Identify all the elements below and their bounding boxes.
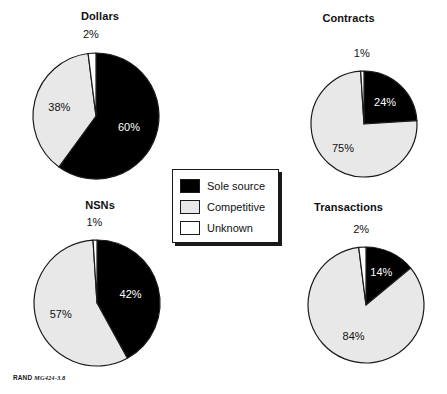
pie-slice-label-transactions-2: 2%: [353, 223, 369, 235]
pie-panel-dollars: Dollars 60%38%2%: [0, 0, 200, 190]
pie-svg-contracts: [250, 0, 447, 190]
pie-svg-dollars: [0, 0, 200, 190]
pie-graphic-dollars: 60%38%2%: [0, 0, 200, 190]
pie-graphic-contracts: 24%75%1%: [250, 0, 447, 190]
pie-panel-contracts: Contracts 24%75%1%: [250, 0, 447, 190]
figure-pie-chart-set: Dollars 60%38%2% Contracts 24%75%1% NSNs…: [0, 0, 447, 394]
pie-slice-label-dollars-0: 60%: [118, 121, 140, 133]
chart-legend: Sole source Competitive Unknown: [172, 169, 279, 243]
legend-swatch-competitive: [180, 200, 200, 214]
pie-slice-label-nsns-1: 57%: [50, 308, 72, 320]
pie-graphic-transactions: 14%84%2%: [250, 190, 447, 375]
pie-slice-label-nsns-2: 1%: [87, 216, 103, 228]
pie-slice-label-contracts-0: 24%: [374, 96, 396, 108]
pie-slice-label-dollars-2: 2%: [83, 28, 99, 40]
legend-item-unknown: Unknown: [180, 218, 278, 238]
pie-slice-label-contracts-2: 1%: [354, 47, 370, 59]
pie-slice-label-dollars-1: 38%: [48, 101, 70, 113]
pie-panel-transactions: Transactions 14%84%2%: [250, 190, 447, 375]
pie-slice-label-transactions-1: 84%: [343, 330, 365, 342]
pie-slice-label-nsns-0: 42%: [120, 288, 142, 300]
pie-graphic-nsns: 42%57%1%: [0, 190, 200, 375]
legend-label-sole-source: Sole source: [207, 180, 265, 192]
pie-panel-nsns: NSNs 42%57%1%: [0, 190, 200, 375]
legend-label-competitive: Competitive: [207, 201, 265, 213]
pie-svg-transactions: [250, 190, 447, 375]
source-brand: RAND: [13, 374, 32, 381]
legend-item-sole-source: Sole source: [180, 176, 278, 196]
legend-swatch-sole-source: [180, 179, 200, 193]
legend-item-competitive: Competitive: [180, 197, 278, 217]
pie-slice-label-transactions-0: 14%: [370, 266, 392, 278]
legend-swatch-unknown: [180, 221, 200, 235]
source-id: MG424-3.8: [34, 374, 65, 381]
legend-label-unknown: Unknown: [207, 222, 253, 234]
pie-slice-label-contracts-1: 75%: [332, 142, 354, 154]
figure-source-note: RAND MG424-3.8: [13, 374, 65, 381]
